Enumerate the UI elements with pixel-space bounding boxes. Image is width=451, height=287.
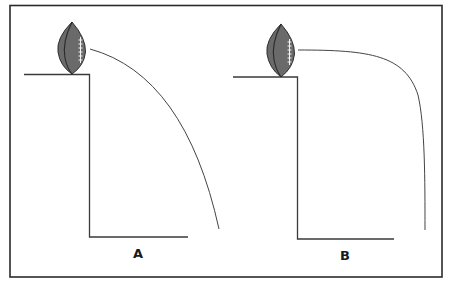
panel-b-label: B — [340, 248, 350, 263]
trajectory-b — [298, 50, 425, 230]
cliff-trajectory-diagram — [0, 0, 451, 287]
trajectory-a — [90, 49, 219, 229]
panel-a-label: A — [133, 246, 143, 261]
football-icon-b — [267, 24, 295, 77]
panel-b — [233, 24, 425, 239]
football-icon-a — [58, 22, 86, 74]
cliff-b — [233, 77, 394, 239]
panel-a — [24, 22, 219, 237]
